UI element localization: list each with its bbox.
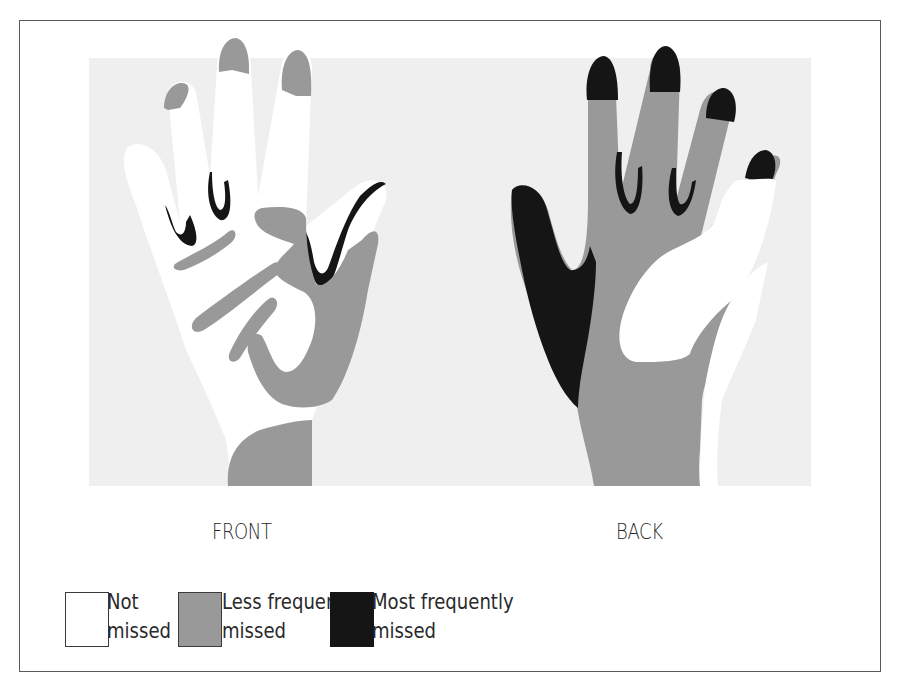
legend-label-line1: Not [107,588,171,617]
legend-swatch-black [330,592,374,647]
back-fingertip-black [650,46,681,92]
back-hand [511,46,780,486]
legend-label: Most frequently missed [372,588,514,646]
front-hand [124,38,387,486]
front-hand-label: FRONT [212,520,272,544]
back-fingertip-black [586,56,618,100]
legend-label-line2: missed [372,617,514,646]
back-hand-label: BACK [616,520,663,544]
back-fingertip-black [745,150,775,180]
legend-label-line2: missed [107,617,171,646]
legend-swatch-white [65,592,109,647]
legend-label-line1: Most frequently [372,588,514,617]
legend-label: Not missed [107,588,171,646]
back-fingertip-black [706,88,736,122]
front-fingertip-gray [219,38,249,74]
legend-swatch-gray [178,592,222,647]
